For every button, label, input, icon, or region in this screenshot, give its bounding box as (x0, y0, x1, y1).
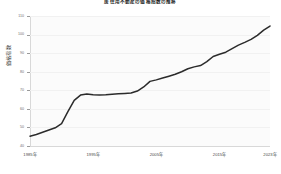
x-tick-label: 1995年 (76, 151, 110, 157)
gridline (30, 72, 270, 73)
x-axis-line (30, 146, 270, 147)
y-tick-label: 100 (10, 32, 24, 36)
y-tick-label: 70 (10, 88, 24, 92)
y-tick-label: 110 (10, 14, 24, 18)
gridline (30, 35, 270, 36)
y-tick-mark (27, 146, 30, 147)
y-axis-title: 価格指数 (4, 38, 11, 74)
y-tick-label: 90 (10, 51, 24, 55)
x-tick-label: 2023年 (253, 151, 281, 157)
y-tick-label: 80 (10, 70, 24, 74)
page-title: 居住用不動産の価格指数の推移 (0, 0, 281, 4)
x-tick-label: 1985年 (13, 151, 47, 157)
x-tick-label: 2015年 (202, 151, 236, 157)
chart-figure: 居住用不動産の価格指数の推移 価格指数 405060708090100110 1… (0, 0, 281, 174)
gridline (30, 109, 270, 110)
y-tick-label: 50 (10, 125, 24, 129)
gridline (30, 53, 270, 54)
y-tick-label: 60 (10, 107, 24, 111)
gridline (30, 127, 270, 128)
y-tick-label: 40 (10, 144, 24, 148)
gridline (30, 16, 270, 17)
x-tick-label: 2005年 (139, 151, 173, 157)
gridline (30, 90, 270, 91)
